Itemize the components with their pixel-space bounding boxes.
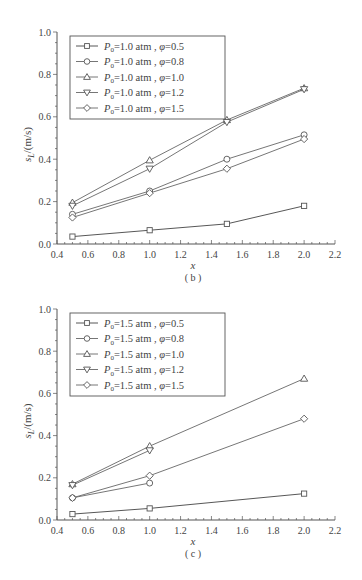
series-square [70, 203, 307, 239]
square-marker-icon [70, 511, 75, 516]
circle-marker-icon [84, 59, 90, 65]
square-marker-icon [224, 221, 229, 226]
square-marker-icon [147, 228, 152, 233]
x-tick-label: 2.2 [329, 525, 342, 536]
x-tick-label: 2.0 [298, 249, 311, 260]
legend: P0=1.0 atm , φ=0.5P0=1.0 atm , φ=0.8P0=1… [70, 36, 225, 119]
y-tick-label: 1.0 [39, 304, 52, 315]
x-tick-label: 0.6 [82, 249, 95, 260]
svg-text:sL/(m/s): sL/(m/s) [21, 403, 36, 438]
panel-caption: ( b ) [185, 272, 202, 284]
x-tick-label: 0.6 [82, 525, 95, 536]
square-marker-icon [70, 234, 75, 239]
y-tick-label: 0.8 [39, 346, 52, 357]
circle-marker-icon [84, 336, 90, 342]
triangle-up-marker-icon [146, 157, 153, 163]
x-tick-label: 1.0 [143, 249, 156, 260]
svg-text:sL/(m/s): sL/(m/s) [21, 127, 36, 162]
series-diamond [69, 135, 308, 221]
square-marker-icon [302, 203, 307, 208]
y-tick-label: 0.6 [39, 111, 52, 122]
x-tick-label: 1.8 [267, 249, 280, 260]
series-diamond [69, 415, 308, 501]
x-tick-label: 2.2 [329, 249, 342, 260]
panel-caption: ( c ) [185, 548, 201, 560]
x-tick-label: 2.0 [298, 525, 311, 536]
triangle-down-marker-icon [146, 448, 153, 454]
x-axis-label: x [190, 535, 196, 547]
diamond-marker-icon [146, 472, 153, 479]
y-tick-label: 0.0 [39, 515, 52, 526]
x-tick-label: 1.2 [174, 249, 187, 260]
x-tick-label: 1.6 [236, 249, 249, 260]
series-triangle-down [69, 448, 153, 489]
square-marker-icon [147, 506, 152, 511]
y-tick-label: 1.0 [39, 27, 52, 38]
x-axis-label: x [190, 259, 196, 271]
y-tick-label: 0.2 [39, 472, 52, 483]
x-tick-label: 0.4 [51, 249, 64, 260]
triangle-up-marker-icon [301, 375, 308, 381]
square-marker-icon [85, 44, 90, 49]
x-tick-label: 0.8 [113, 249, 126, 260]
y-axis-label: sL/(m/s) [21, 127, 36, 162]
x-tick-label: 1.8 [267, 525, 280, 536]
series-square [70, 491, 307, 517]
circle-marker-icon [224, 156, 230, 162]
x-tick-label: 0.4 [51, 525, 64, 536]
diamond-marker-icon [301, 415, 308, 422]
triangle-down-marker-icon [146, 166, 153, 172]
diamond-marker-icon [69, 494, 76, 501]
x-tick-label: 1.6 [236, 525, 249, 536]
triangle-down-marker-icon [69, 203, 76, 209]
y-tick-label: 0.4 [39, 430, 52, 441]
legend: P0=1.5 atm , φ=0.5P0=1.5 atm , φ=0.8P0=1… [70, 313, 225, 396]
y-tick-label: 0.8 [39, 69, 52, 80]
x-tick-label: 1.2 [174, 525, 187, 536]
x-tick-label: 1.4 [205, 249, 218, 260]
y-tick-label: 0.4 [39, 154, 52, 165]
series-circle [69, 480, 152, 501]
diamond-marker-icon [223, 165, 230, 172]
circle-marker-icon [147, 480, 153, 486]
y-tick-label: 0.2 [39, 196, 52, 207]
square-marker-icon [85, 321, 90, 326]
chart-c-canvas: 0.40.60.81.01.21.41.61.82.02.20.00.20.40… [0, 290, 362, 580]
x-tick-label: 1.0 [143, 525, 156, 536]
series-circle [69, 132, 307, 218]
chart-panel-c: 0.40.60.81.01.21.41.61.82.02.20.00.20.40… [0, 290, 362, 580]
chart-panel-b: 0.40.60.81.01.21.41.61.82.02.20.00.20.40… [0, 0, 362, 290]
y-tick-label: 0.6 [39, 388, 52, 399]
y-axis-label: sL/(m/s) [21, 403, 36, 438]
square-marker-icon [302, 491, 307, 496]
x-tick-label: 1.4 [205, 525, 218, 536]
x-tick-label: 0.8 [113, 525, 126, 536]
y-tick-label: 0.0 [39, 239, 52, 250]
chart-b-canvas: 0.40.60.81.01.21.41.61.82.02.20.00.20.40… [0, 0, 362, 290]
